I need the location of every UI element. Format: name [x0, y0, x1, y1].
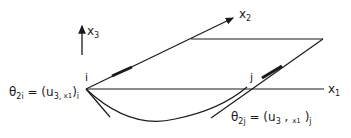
- x1-axis-label: x1: [328, 83, 340, 98]
- direction-arrow-j: [262, 66, 282, 78]
- deflection-curve: [86, 87, 247, 121]
- direction-arrow-i: [112, 67, 132, 76]
- parallelogram-right-edge: [211, 39, 323, 118]
- node-label-j: j: [250, 72, 253, 83]
- x3-axis-label: x3: [87, 25, 99, 40]
- x2-axis-label: x2: [239, 8, 251, 23]
- x2-axis-arrow: [86, 18, 233, 89]
- tangent-line-i: [86, 89, 110, 117]
- theta-j-equation: θ2j = (u3 , x1 )j: [231, 111, 312, 126]
- node-label-i: i: [85, 72, 88, 83]
- theta-i-equation: θ2i = (u3, x1)i: [9, 86, 79, 101]
